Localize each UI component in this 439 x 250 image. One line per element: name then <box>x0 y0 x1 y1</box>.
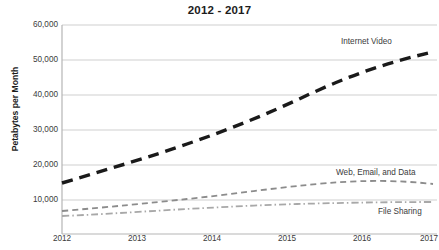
series-label-web-email-data: Web, Email, and Data <box>336 168 416 177</box>
x-tick-2016: 2016 <box>353 234 371 243</box>
series-label-file-sharing: File Sharing <box>378 207 422 216</box>
chart-container: 2012 - 2017 Petabytes per Month 60,000 5… <box>0 0 439 250</box>
x-tick-2014: 2014 <box>203 234 221 243</box>
x-axis-tick-labels: 2012 2013 2014 2015 2016 2017 <box>0 234 439 248</box>
x-tick-2013: 2013 <box>128 234 146 243</box>
x-tick-2017: 2017 <box>420 234 438 243</box>
x-tick-2012: 2012 <box>53 234 71 243</box>
series-line-internet-video <box>62 52 433 183</box>
series-lines <box>62 52 433 216</box>
x-tick-2015: 2015 <box>278 234 296 243</box>
series-label-internet-video: Internet Video <box>341 37 392 46</box>
